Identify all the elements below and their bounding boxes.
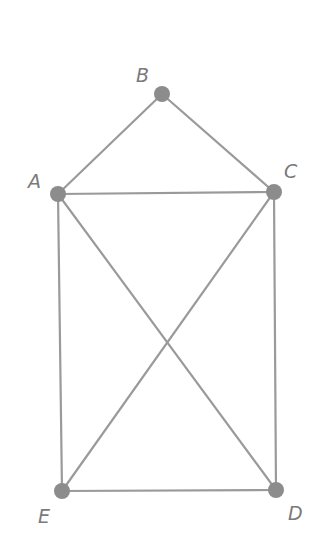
edge-a-b (58, 94, 162, 194)
node-e (54, 483, 70, 499)
node-label-d: D (288, 502, 303, 524)
node-d (268, 482, 284, 498)
node-label-b: B (136, 64, 149, 86)
labels: ABCDE (26, 64, 303, 527)
edge-a-c (58, 192, 274, 194)
node-a (50, 186, 66, 202)
nodes (50, 86, 284, 499)
node-label-c: C (284, 160, 298, 182)
edge-c-e (62, 192, 274, 491)
node-c (266, 184, 282, 200)
edges (58, 94, 276, 491)
node-label-e: E (38, 505, 50, 527)
node-b (154, 86, 170, 102)
edge-b-c (162, 94, 274, 192)
edge-c-d (274, 192, 276, 490)
edge-a-e (58, 194, 62, 491)
graph-diagram: ABCDE (0, 0, 326, 547)
edge-e-d (62, 490, 276, 491)
node-label-a: A (26, 170, 41, 192)
